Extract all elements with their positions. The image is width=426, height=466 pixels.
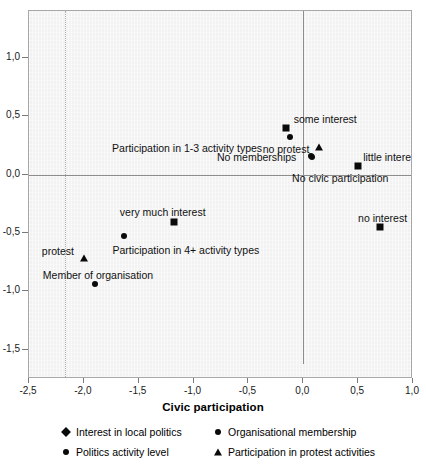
x-axis-tick-label: -0,5 — [227, 385, 267, 396]
circle-icon — [92, 281, 98, 287]
plot-background-texture — [29, 11, 411, 377]
data-point-label: Member of organisation — [43, 270, 153, 281]
y-axis-tick-label: 0,5 — [0, 109, 20, 120]
circle-icon — [212, 426, 224, 438]
legend-label: Interest in local politics — [76, 426, 182, 438]
legend-label: Politics activity level — [76, 446, 169, 458]
diamond-icon — [377, 224, 384, 231]
x-axis-tick — [247, 378, 248, 383]
circle-icon — [287, 134, 293, 140]
data-point-label: No civic participation — [292, 173, 388, 184]
y-axis-tick-label: 0,0 — [0, 168, 20, 179]
x-axis-tick — [138, 378, 139, 383]
diamond-icon — [282, 124, 289, 131]
triangle-icon — [212, 446, 224, 458]
data-point-label: little interest — [363, 152, 412, 163]
x-axis-tick-label: -1,5 — [118, 385, 158, 396]
data-point-label: no interest — [358, 213, 407, 224]
x-axis-tick — [302, 378, 303, 383]
y-axis-tick-label: -1,5 — [0, 343, 20, 354]
plot-guide-line — [65, 11, 66, 377]
legend: Interest in local politics Organisationa… — [60, 422, 420, 462]
zero-line-vertical — [303, 11, 304, 364]
triangle-icon — [80, 254, 88, 261]
data-point-label: no protest — [263, 144, 310, 155]
x-axis-tick-label: 0,5 — [337, 385, 377, 396]
x-axis-tick-label: -2,5 — [8, 385, 48, 396]
x-axis-tick — [193, 378, 194, 383]
x-axis-tick — [357, 378, 358, 383]
legend-item-organisational-membership: Organisational membership — [212, 426, 356, 438]
circle-icon — [60, 446, 72, 458]
x-axis-tick — [28, 378, 29, 383]
diamond-icon — [60, 426, 72, 438]
scatter-chart: some interestlittle interestno interestv… — [0, 0, 426, 466]
y-axis-tick-label: 1,0 — [0, 51, 20, 62]
x-axis-tick — [83, 378, 84, 383]
data-point-label: protest — [42, 246, 74, 257]
y-axis-tick — [22, 115, 28, 116]
plot-area: some interestlittle interestno interestv… — [28, 10, 412, 378]
y-axis-tick-label: -1,0 — [0, 284, 20, 295]
x-axis-title: Civic participation — [0, 401, 426, 413]
y-axis-tick — [22, 174, 28, 175]
legend-label: Organisational membership — [228, 426, 356, 438]
x-axis-tick-label: 1,0 — [392, 385, 426, 396]
y-axis-tick — [22, 232, 28, 233]
legend-label: Participation in protest activities — [228, 446, 375, 458]
x-axis-tick — [412, 378, 413, 383]
y-axis-tick — [22, 349, 28, 350]
diamond-icon — [355, 163, 362, 170]
diamond-icon — [170, 219, 177, 226]
legend-row: Interest in local politics Organisationa… — [60, 422, 420, 442]
data-point-label: some interest — [294, 114, 357, 125]
legend-item-interest-in-local-politics: Interest in local politics — [60, 426, 212, 438]
y-axis-tick — [22, 57, 28, 58]
x-axis-tick-label: -1,0 — [173, 385, 213, 396]
triangle-icon — [315, 143, 323, 150]
x-axis-tick-label: -2,0 — [63, 385, 103, 396]
data-point-label: Participation in 4+ activity types — [112, 245, 259, 256]
data-point-label: very much interest — [120, 207, 206, 218]
legend-item-politics-activity-level: Politics activity level — [60, 446, 212, 458]
legend-row: Politics activity level Participation in… — [60, 442, 420, 462]
legend-item-participation-in-protest-activities: Participation in protest activities — [212, 446, 375, 458]
circle-icon — [121, 233, 127, 239]
y-axis-tick-label: -0,5 — [0, 226, 20, 237]
y-axis-tick — [22, 290, 28, 291]
x-axis-tick-label: 0,0 — [282, 385, 322, 396]
